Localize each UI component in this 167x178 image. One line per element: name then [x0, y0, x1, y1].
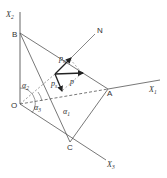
point-N-label: N [97, 26, 103, 35]
x1-label: X1 [148, 85, 157, 95]
x1-axis-hidden [20, 89, 108, 104]
x3-label: X3 [106, 160, 115, 170]
vector-pn-label: pn [58, 54, 66, 64]
vector-ps-label: ps [50, 79, 57, 89]
vector-p-label: p [69, 77, 74, 86]
point-O-label: O [11, 101, 17, 110]
point-B-label: B [12, 30, 17, 39]
x2-label: X2 [5, 10, 14, 20]
angle-a2-label: α2 [22, 81, 29, 91]
point-A-label: A [107, 89, 113, 98]
point-C-label: C [67, 143, 73, 152]
angle-arc-a1 [38, 92, 42, 101]
tetrahedron-stress-diagram: X2 B O A C N X1 X3 α2 α3 α1 pn p ps [0, 0, 167, 178]
angle-a1-label: α1 [63, 107, 70, 117]
vector-p [55, 73, 83, 74]
angle-a3-label: α3 [34, 103, 41, 113]
edge-AC [70, 89, 108, 142]
